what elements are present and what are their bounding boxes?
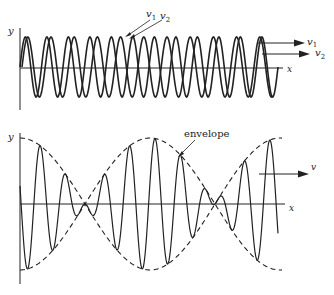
envelope-label: envelope: [184, 128, 230, 139]
bottom-panel: y x envelope v: [7, 128, 316, 284]
group-arrowhead-icon: [298, 171, 309, 178]
v1-callout-arrowhead: [125, 32, 131, 37]
top-panel: y x v1 v2 v1 v2: [7, 8, 325, 110]
v2-arrow-label: v2: [315, 47, 325, 61]
wave-diagram: y x v1 v2 v1 v2 y x envelope v: [0, 0, 334, 295]
bottom-y-label: y: [7, 131, 14, 142]
wave-v2-label: v2: [160, 10, 170, 24]
bottom-x-label: x: [289, 203, 294, 213]
top-y-label: y: [7, 25, 14, 36]
v1-arrowhead-icon: [294, 40, 305, 47]
top-x-label: x: [287, 64, 292, 74]
wave-v1-label: v1: [146, 8, 156, 22]
v2-arrowhead-icon: [299, 51, 310, 58]
group-velocity-label: v: [311, 162, 316, 172]
